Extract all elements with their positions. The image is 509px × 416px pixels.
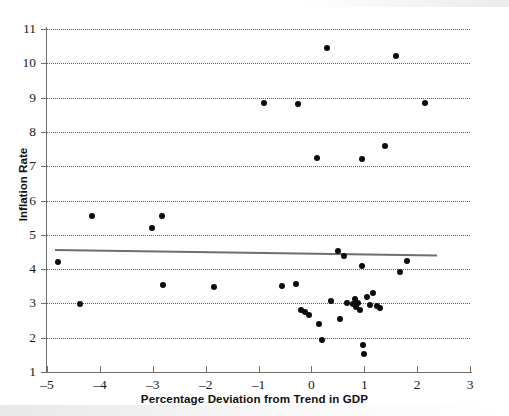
scatter-point [295,101,301,107]
y-axis-tick [41,338,47,339]
y-axis-tick [41,303,47,304]
x-axis-title: Percentage Deviation from Trend in GDP [0,392,509,405]
scatter-point [149,225,155,231]
gridline-y [47,166,470,167]
y-tick-label: 11 [6,22,36,36]
scatter-point [377,305,383,311]
y-tick-label: 4 [6,262,36,276]
y-axis-tick [41,235,47,236]
x-tick-label: –1 [244,378,274,392]
plot-area [47,29,470,372]
gridline-y [47,303,470,304]
scatter-point [77,301,83,307]
scatter-point [293,281,299,287]
scatter-point [397,269,403,275]
scatter-point [160,282,166,288]
x-tick-label: 1 [349,378,379,392]
gridline-y [47,132,470,133]
scatter-point [382,143,388,149]
y-axis-tick [41,63,47,64]
scatter-point [55,259,61,265]
x-axis-tick [153,366,154,373]
x-axis-tick [206,366,207,373]
scatter-point [159,213,165,219]
x-tick-label: 0 [296,378,326,392]
scatter-point [314,155,320,161]
x-axis-tick [470,366,471,373]
gridline-y [47,235,470,236]
scatter-point [359,156,365,162]
scatter-point [337,316,343,322]
gridline-y [47,98,470,99]
scatter-point [341,253,347,259]
scatter-point [324,45,330,51]
page-edge-artifact-bottom [0,405,509,416]
page-edge-artifact-top [300,0,509,7]
scatter-point [359,263,365,269]
x-axis-tick [100,366,101,373]
scatter-point [211,284,217,290]
y-axis-tick [41,98,47,99]
scatter-point [360,342,366,348]
gridline-y [47,201,470,202]
scatter-point [357,307,363,313]
x-tick-label: –2 [191,378,221,392]
scatter-point [261,100,267,106]
y-axis-tick [41,201,47,202]
y-axis-tick [41,166,47,167]
y-tick-label: 2 [6,331,36,345]
y-axis-tick [41,29,47,30]
y-tick-label: 1 [6,365,36,379]
scatter-point [355,300,361,306]
gridline-y [47,338,470,339]
scatter-point [370,290,376,296]
x-tick-label: –3 [138,378,168,392]
scatter-point [404,258,410,264]
scatter-point [393,53,399,59]
scatter-point [279,283,285,289]
scatter-point [364,294,370,300]
y-axis-tick [41,132,47,133]
scatter-point [316,321,322,327]
gridline-y [47,63,470,64]
x-tick-label: 3 [455,378,485,392]
x-tick-label: –5 [32,378,62,392]
y-axis-tick [41,269,47,270]
scatter-point [422,100,428,106]
scatter-point [361,351,367,357]
x-axis-tick [311,366,312,373]
x-axis-tick [417,366,418,373]
y-tick-label: 3 [6,296,36,310]
scatter-point [319,337,325,343]
scatter-point [306,312,312,318]
x-tick-label: –4 [85,378,115,392]
y-axis-title: Inflation Rate [16,115,29,255]
chart-figure: 1234567891011 –5–4–3–2–10123 Percentage … [0,0,509,416]
scatter-point [328,298,334,304]
y-tick-label: 10 [6,56,36,70]
gridline-y [47,29,470,30]
x-tick-label: 2 [402,378,432,392]
x-axis-tick [47,366,48,373]
gridline-y [47,269,470,270]
scatter-point [367,302,373,308]
scatter-point [335,248,341,254]
x-axis-tick [364,366,365,373]
y-tick-label: 9 [6,91,36,105]
scatter-point [89,213,95,219]
x-axis-tick [259,366,260,373]
